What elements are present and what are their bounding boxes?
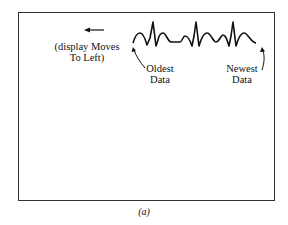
oldest-data-label: Oldest Data [143, 63, 177, 85]
display-direction-line2: To Left) [52, 52, 122, 63]
oldest-data-line2: Data [143, 74, 177, 85]
waveform-diagram [0, 0, 288, 225]
figure-caption: (a) [134, 206, 154, 217]
newest-data-line2: Data [222, 74, 262, 85]
oldest-data-line1: Oldest [143, 63, 177, 74]
left-arrow-icon [84, 28, 104, 33]
newest-data-label: Newest Data [222, 63, 262, 85]
display-direction-line1: (display Moves [52, 41, 122, 52]
display-direction-label: (display Moves To Left) [52, 41, 122, 63]
newest-data-line1: Newest [222, 63, 262, 74]
waveform-trace [133, 22, 256, 46]
